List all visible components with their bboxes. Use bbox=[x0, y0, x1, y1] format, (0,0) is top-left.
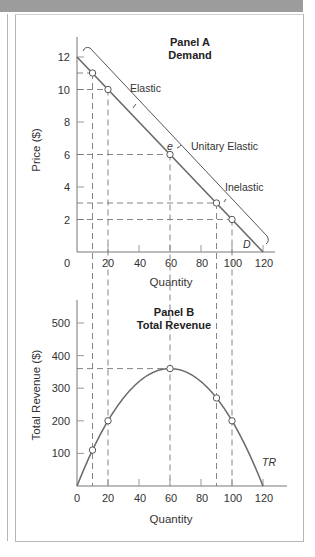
panel-b-y-tick-400: 400 bbox=[52, 350, 70, 362]
panel-a-y-tick-10: 10 bbox=[58, 84, 70, 96]
panel-b-y-tick-100: 100 bbox=[52, 447, 70, 459]
tr-point-q100 bbox=[229, 418, 235, 424]
demand-label: D bbox=[243, 238, 251, 250]
panel-b-x-tick-120: 120 bbox=[255, 492, 273, 504]
panel-a-y-ticks bbox=[77, 57, 84, 220]
panel-a-x-axis-title: Quantity bbox=[150, 276, 193, 288]
panel-a-y-tick-8: 8 bbox=[64, 116, 70, 128]
panel-b-x-tick-100: 100 bbox=[224, 492, 242, 504]
panel-a-x-tick-60: 60 bbox=[165, 257, 177, 269]
panel-a-x-tick-80: 80 bbox=[196, 257, 208, 269]
panel-a-title-line1: Panel A bbox=[170, 36, 210, 48]
elastic-label: Elastic bbox=[130, 82, 161, 94]
tr-point-q20 bbox=[105, 418, 111, 424]
panel-b-x-tick-0: 0 bbox=[74, 492, 80, 504]
tr-point-q60-max bbox=[167, 365, 173, 371]
panel-b-title-line2: Total Revenue bbox=[137, 319, 211, 331]
panel-a-x-tick-40: 40 bbox=[134, 257, 146, 269]
tr-point-q10 bbox=[89, 447, 95, 453]
panel-a-y-tick-4: 4 bbox=[64, 181, 70, 193]
inelastic-label: Inelastic bbox=[225, 181, 264, 193]
panel-a-x-ticks bbox=[108, 245, 263, 252]
panel-b-x-tick-60: 60 bbox=[165, 492, 177, 504]
panel-a-y-tick-12: 12 bbox=[58, 51, 70, 63]
panel-b-total-revenue: 500 400 300 200 100 0 20 40 60 80 100 12… bbox=[30, 300, 287, 525]
panel-b-y-ticks bbox=[77, 323, 84, 453]
inelastic-notch bbox=[224, 199, 226, 202]
unitary-elastic-label: Unitary Elastic bbox=[191, 140, 258, 152]
panel-a-y-tick-6: 6 bbox=[64, 149, 70, 161]
panel-b-y-tick-500: 500 bbox=[52, 317, 70, 329]
point-q90 bbox=[213, 200, 219, 206]
panel-b-x-ticks bbox=[108, 479, 263, 486]
point-q10 bbox=[89, 70, 95, 76]
panel-b-y-tick-300: 300 bbox=[52, 382, 70, 394]
panel-b-x-tick-40: 40 bbox=[134, 492, 146, 504]
point-e-q60 bbox=[167, 151, 173, 157]
elastic-notch bbox=[133, 104, 136, 108]
chart-canvas: 12 10 8 6 4 2 0 20 40 60 80 100 120 Quan… bbox=[0, 0, 315, 557]
tr-point-q90 bbox=[213, 395, 219, 401]
panel-a-x-tick-120: 120 bbox=[255, 257, 273, 269]
point-e-label: e bbox=[167, 140, 173, 152]
panel-a-y-tick-2: 2 bbox=[64, 214, 70, 226]
panel-b-y-axis-title: Total Revenue ($) bbox=[30, 349, 42, 440]
panel-a-title-line2: Demand bbox=[168, 49, 211, 61]
point-q100 bbox=[229, 216, 235, 222]
panel-b-y-tick-200: 200 bbox=[52, 415, 70, 427]
panel-b-points bbox=[89, 365, 235, 453]
panel-b-x-tick-80: 80 bbox=[196, 492, 208, 504]
panel-a-y-axis-title: Price ($) bbox=[30, 128, 42, 172]
panel-b-x-axis-title: Quantity bbox=[150, 513, 193, 525]
panel-b-title-line1: Panel B bbox=[154, 306, 194, 318]
point-q20 bbox=[105, 86, 111, 92]
panel-a-x-tick-100: 100 bbox=[224, 257, 242, 269]
tr-label: TR bbox=[262, 456, 276, 468]
unitary-notch bbox=[177, 145, 181, 148]
panel-a-x-tick-0: 0 bbox=[64, 257, 70, 269]
panel-b-x-tick-20: 20 bbox=[102, 492, 114, 504]
